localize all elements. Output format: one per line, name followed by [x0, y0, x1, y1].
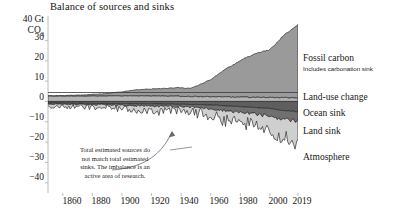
annotation-line-4: active area of research. [52, 172, 178, 181]
annotation-line-2: not match total estimated [52, 155, 178, 164]
annotation-line-1: Total estimated sources do [52, 146, 178, 155]
legend-item-land-use-change: Land-use change [303, 92, 368, 103]
imbalance-annotation: Total estimated sources do not match tot… [52, 146, 178, 180]
legend-item-land-sink: Land sink [303, 126, 341, 137]
chart-figure: Balance of sources and sinks 40 Gt CO2 3… [0, 0, 406, 222]
x-tick-label-2019: 2019 [282, 196, 322, 206]
annotation-line-3: sinks. The imbalance is an [52, 163, 178, 172]
legend-item-atmosphere: Atmosphere [303, 152, 349, 163]
legend-item-fossil-carbon: Fossil carbon [303, 53, 354, 64]
legend-item-ocean-sink: Ocean sink [303, 108, 345, 119]
legend-sublabel-carbonation: Includes carbonation sink [303, 65, 373, 72]
